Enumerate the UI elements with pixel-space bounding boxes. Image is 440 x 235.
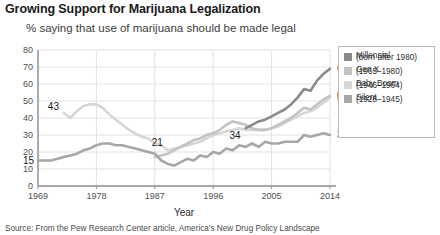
chart-container: Growing Support for Marijuana Legalizati… [0,0,440,235]
y-tick-label: 60 [23,79,33,89]
source-note: Source: From the Pew Research Center art… [5,224,320,233]
x-axis-tick-labels: 196919781987199620052014 [28,186,340,201]
legend-swatch-millennial [344,53,352,61]
legend-sub-row: (born after 1980) [356,53,430,63]
y-axis-tick-labels: 01020304050607080 [23,45,33,191]
data-series-lines [38,69,330,166]
gridlines [38,50,330,186]
legend-sub-row: (1965–1980) [356,67,430,77]
legend-sub-row: (1928–1945) [356,95,430,105]
x-tick-label: 1978 [86,191,106,201]
x-tick-label: 2005 [262,191,282,201]
series-line-silent [38,133,330,165]
legend-swatch-silent [344,95,352,103]
data-point-label: 34 [230,130,242,141]
x-tick-label: 1987 [145,191,165,201]
y-tick-label: 50 [23,96,33,106]
x-axis-title: Year [174,207,195,218]
legend-sublabel-gen-x: (1965–1980) [356,67,402,77]
legend-sublabel-millennial: (born after 1980) [356,53,417,63]
x-tick-label: 2014 [320,191,340,201]
data-point-label: 15 [23,155,35,166]
chart-subtitle: % saying that use of marijuana should be… [26,22,296,34]
legend: Millennial (born after 1980) Gen X (1965… [338,46,435,138]
y-tick-label: 40 [23,113,33,123]
x-tick-label: 1996 [203,191,223,201]
legend-sublabel-silent: (1928–1945) [356,95,402,105]
legend-swatch-baby-boom [344,81,352,89]
series-line-gen-x [155,96,330,157]
legend-swatch-gen-x [344,67,352,75]
legend-sublabel-baby-boom: (1946–1964) [356,81,402,91]
y-tick-label: 0 [28,181,33,191]
y-tick-label: 30 [23,130,33,140]
legend-sub-row: (1946–1964) [356,81,430,91]
data-point-label: 21 [152,137,164,148]
y-tick-label: 80 [23,45,33,55]
y-tick-label: 70 [23,62,33,72]
data-point-label: 43 [48,101,60,112]
x-tick-label: 1969 [28,191,48,201]
page-title: Growing Support for Marijuana Legalizati… [5,2,261,16]
